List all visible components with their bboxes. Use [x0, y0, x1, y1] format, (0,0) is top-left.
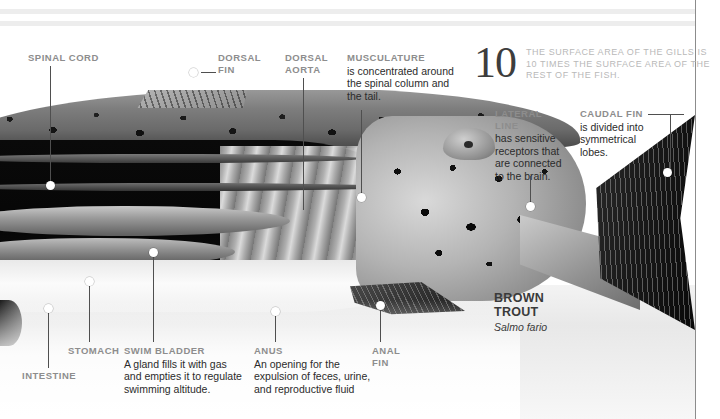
- callout-dorsal-aorta: DORSAL AORTA: [285, 52, 328, 75]
- dot-dorsal-fin: [189, 68, 198, 77]
- callout-intestine-heading: INTESTINE: [22, 370, 76, 382]
- callout-spinal-cord-heading: SPINAL CORD: [28, 52, 99, 64]
- species-label: BROWN TROUT Salmo fario: [494, 292, 547, 333]
- callout-anal-fin: ANAL FIN: [372, 345, 400, 368]
- callout-anus-body: An opening for the expulsion of feces, u…: [254, 358, 372, 396]
- stat-text: THE SURFACE AREA OF THE GILLS IS 10 TIME…: [526, 44, 720, 82]
- dot-anus: [271, 307, 280, 316]
- adipose-fin-shape: [443, 128, 495, 160]
- callout-swim-bladder-body: A gland fills it with gas and empties it…: [124, 358, 242, 396]
- callout-stomach: STOMACH: [68, 345, 119, 357]
- leader-anal-fin: [380, 309, 381, 342]
- callout-musculature: MUSCULATURE is concentrated around the s…: [347, 52, 455, 102]
- dot-anal-fin: [376, 301, 385, 310]
- dot-swim-bladder: [149, 248, 158, 257]
- callout-dorsal-fin-heading-line2: FIN: [218, 64, 261, 76]
- callout-lateral-line: LATERAL LINE has sensitive receptors tha…: [495, 108, 567, 182]
- dot-caudal-fin: [663, 168, 672, 177]
- callout-swim-bladder-heading: SWIM BLADDER: [124, 345, 242, 357]
- callout-caudal-fin-heading: CAUDAL FIN: [580, 108, 652, 120]
- callout-musculature-heading: MUSCULATURE: [347, 52, 455, 64]
- leader-spinal-cord: [50, 66, 51, 185]
- leader-dorsal-aorta: [303, 78, 304, 210]
- callout-stomach-heading: STOMACH: [68, 345, 119, 357]
- species-common-name-line2: TROUT: [494, 306, 547, 320]
- callout-caudal-fin-body: is divided into symmetrical lobes.: [580, 121, 652, 159]
- leader-caudal-fin-vertical: [670, 114, 671, 172]
- leader-anus: [275, 315, 276, 342]
- callout-dorsal-fin-heading-line1: DORSAL: [218, 52, 261, 64]
- species-common-name-line1: BROWN: [494, 292, 547, 306]
- leader-stomach: [89, 286, 90, 342]
- callout-dorsal-aorta-heading-line2: AORTA: [285, 64, 328, 76]
- dot-lateral-line: [526, 202, 535, 211]
- stat-block: 10 THE SURFACE AREA OF THE GILLS IS 10 T…: [474, 44, 720, 82]
- callout-intestine: INTESTINE: [22, 370, 76, 382]
- callout-anal-fin-heading-line1: ANAL: [372, 345, 400, 357]
- leader-swim-bladder: [153, 256, 154, 342]
- leader-caudal-fin-horizontal: [648, 114, 684, 115]
- callout-lateral-line-heading: LATERAL LINE: [495, 108, 567, 131]
- dot-musculature: [357, 193, 366, 202]
- callout-caudal-fin: CAUDAL FIN is divided into symmetrical l…: [580, 108, 652, 158]
- callout-anal-fin-heading-line2: FIN: [372, 357, 400, 369]
- callout-swim-bladder: SWIM BLADDER A gland fills it with gas a…: [124, 345, 242, 395]
- callout-dorsal-fin: DORSAL FIN: [218, 52, 261, 75]
- dot-intestine: [44, 304, 53, 313]
- leader-dorsal-fin: [201, 72, 216, 73]
- callout-anus-heading: ANUS: [254, 345, 372, 357]
- callout-spinal-cord: SPINAL CORD: [28, 52, 99, 64]
- callout-lateral-line-body: has sensitive receptors that are connect…: [495, 132, 567, 182]
- dot-stomach: [85, 277, 94, 286]
- callout-anus: ANUS An opening for the expulsion of fec…: [254, 345, 372, 395]
- callout-dorsal-aorta-heading-line1: DORSAL: [285, 52, 328, 64]
- dot-spinal-cord: [46, 181, 55, 190]
- callout-musculature-body: is concentrated around the spinal column…: [347, 65, 455, 103]
- species-scientific-name: Salmo fario: [494, 321, 547, 333]
- stat-number: 10: [474, 44, 516, 82]
- leader-intestine: [48, 312, 49, 368]
- leader-musculature: [361, 110, 362, 198]
